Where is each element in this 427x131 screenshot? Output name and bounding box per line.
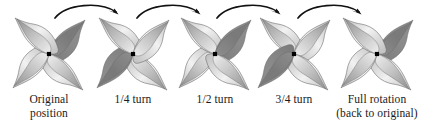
three-quarter-turn: 3/4 turn — [251, 0, 337, 131]
pinwheel-graphic — [334, 18, 420, 90]
pinwheel-rotor — [258, 18, 330, 90]
caption-quarter-turn: 1/4 turn — [90, 93, 176, 107]
caption-original-position: Originalposition — [6, 93, 92, 120]
pinwheel-graphic — [251, 18, 337, 90]
pinwheel-rotor — [97, 18, 169, 90]
pinwheel-hub — [213, 52, 217, 56]
pinwheel-blade — [343, 18, 386, 54]
pinwheel-sequence: Originalposition1/4 turn1/2 turn3/4 turn… — [0, 0, 427, 131]
pinwheel-graphic — [90, 18, 176, 90]
caption-line-1: 1/2 turn — [197, 93, 234, 105]
caption-line-1: 3/4 turn — [276, 93, 313, 105]
quarter-turn: 1/4 turn — [90, 0, 176, 131]
pinwheel-quarter-turn — [90, 18, 176, 90]
pinwheel-hub — [292, 52, 296, 56]
pinwheel-original-position — [6, 18, 92, 90]
caption-three-quarter-turn: 3/4 turn — [251, 93, 337, 107]
caption-full-rotation: Full rotation(back to original) — [334, 93, 420, 120]
pinwheel-blade — [15, 18, 58, 54]
pinwheel-blade — [206, 54, 249, 90]
pinwheel-blade — [133, 20, 169, 63]
caption-line-2: position — [6, 107, 92, 121]
pinwheel-half-turn — [172, 18, 258, 90]
pinwheel-hub — [375, 52, 379, 56]
caption-line-1: 1/4 turn — [115, 93, 152, 105]
pinwheel-rotor — [13, 18, 85, 90]
pinwheel-rotor — [341, 18, 413, 90]
pinwheel-full-rotation — [334, 18, 420, 90]
caption-half-turn: 1/2 turn — [172, 93, 258, 107]
pinwheel-rotor — [179, 18, 251, 90]
full-rotation: Full rotation(back to original) — [334, 0, 420, 131]
pinwheel-hub — [131, 52, 135, 56]
caption-line-1: Full rotation — [348, 93, 406, 105]
caption-line-1: Original — [29, 93, 68, 105]
pinwheel-graphic — [172, 18, 258, 90]
original-position: Originalposition — [6, 0, 92, 131]
pinwheel-blade-marked — [258, 45, 294, 88]
pinwheel-three-quarter-turn — [251, 18, 337, 90]
caption-line-2: (back to original) — [334, 107, 420, 121]
pinwheel-hub — [47, 52, 51, 56]
pinwheel-graphic — [6, 18, 92, 90]
pinwheel-rotation-figure: Originalposition1/4 turn1/2 turn3/4 turn… — [0, 0, 427, 131]
half-turn: 1/2 turn — [172, 0, 258, 131]
